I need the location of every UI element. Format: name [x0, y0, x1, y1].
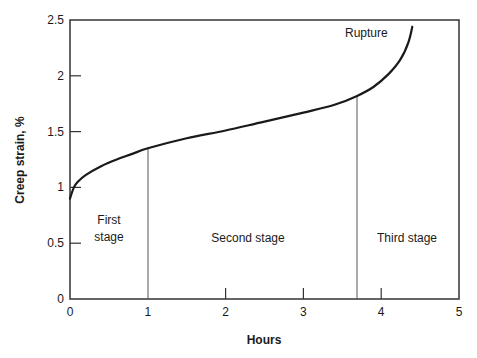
x-tick-label: 4	[378, 305, 385, 319]
y-tick-label: 0	[57, 292, 64, 306]
x-tick-label: 3	[300, 305, 307, 319]
first-stage-label: First	[97, 213, 121, 227]
third-stage-label: Third stage	[377, 231, 437, 245]
x-axis-title: Hours	[247, 333, 282, 347]
y-axis	[70, 76, 81, 243]
rupture-label: Rupture	[345, 26, 388, 40]
x-axis	[226, 288, 382, 299]
y-tick-label: 2.5	[47, 13, 64, 27]
creep-curve-line	[70, 27, 412, 199]
creep-curve-chart: 0 0.5 1 1.5 2 2.5 0 1 2 3 4 5 Hours Cree…	[0, 0, 477, 358]
first-stage-label: stage	[94, 230, 124, 244]
x-tick-label: 1	[144, 305, 151, 319]
y-tick-label: 1.5	[47, 125, 64, 139]
x-tick-label: 0	[67, 305, 74, 319]
x-tick-labels: 0 1 2 3 4 5	[67, 305, 463, 319]
second-stage-label: Second stage	[211, 231, 285, 245]
x-tick-label: 5	[456, 305, 463, 319]
y-axis-title: Creep strain, %	[13, 116, 27, 204]
y-tick-label: 1	[57, 180, 64, 194]
y-tick-label: 2	[57, 69, 64, 83]
plot-frame	[70, 20, 459, 299]
y-tick-labels: 0 0.5 1 1.5 2 2.5	[47, 13, 64, 306]
y-tick-label: 0.5	[47, 236, 64, 250]
x-tick-label: 2	[222, 305, 229, 319]
